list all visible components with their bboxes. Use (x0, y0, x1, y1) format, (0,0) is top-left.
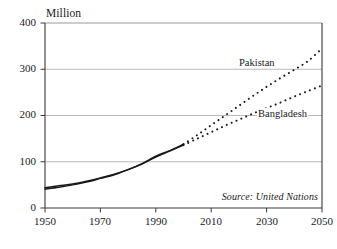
y-tick-label-0: 0 (2, 201, 36, 213)
series-label-pakistan: Pakistan (238, 57, 276, 68)
x-tick-label-2030: 2030 (244, 215, 290, 227)
y-tick-marks (41, 23, 46, 208)
y-tick-label-200: 200 (2, 108, 36, 120)
x-tick-label-1950: 1950 (22, 215, 68, 227)
x-tick-label-2010: 2010 (188, 215, 234, 227)
y-tick-label-100: 100 (2, 155, 36, 167)
chart-canvas (0, 0, 337, 249)
series-label-bangladesh: Bangladesh (257, 108, 308, 119)
y-tick-label-300: 300 (2, 62, 36, 74)
x-tick-label-1970: 1970 (77, 215, 123, 227)
population-projection-chart: Million 400 300 200 100 0 1950 1970 1990… (0, 0, 337, 249)
y-tick-label-400: 400 (2, 16, 36, 28)
x-tick-label-2050: 2050 (299, 215, 337, 227)
x-tick-marks (45, 208, 322, 213)
y-axis-unit-label: Million (46, 7, 81, 19)
x-tick-label-1990: 1990 (133, 215, 179, 227)
source-note: Source: United Nations (204, 191, 318, 202)
